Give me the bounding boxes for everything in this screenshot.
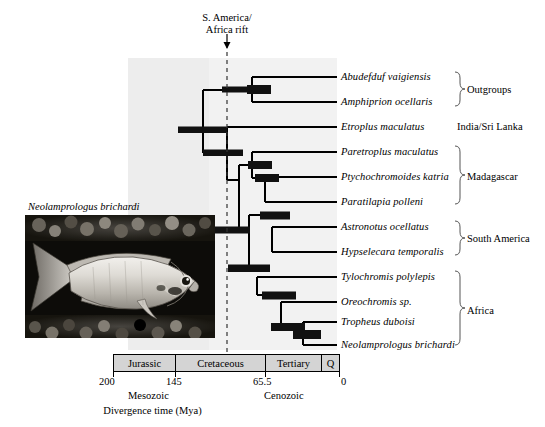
taxon-label: Oreochromis sp.	[341, 296, 412, 307]
node-bar-africa-b	[271, 323, 305, 331]
axis-title: Divergence time (Mya)	[0, 405, 425, 416]
node-bar-root	[178, 127, 227, 134]
region-label-south-america: South America	[467, 233, 530, 244]
tick-label-0: 0	[341, 376, 346, 387]
tick-label-145: 145	[166, 376, 182, 387]
bracket-madagascar	[455, 146, 465, 204]
region-label-madagascar: Madagascar	[467, 171, 518, 182]
eye-pupil	[182, 277, 190, 285]
region-label-africa: Africa	[467, 305, 494, 316]
period-quaternary: Q	[322, 355, 339, 371]
period-cretaceous: Cretaceous	[176, 355, 266, 371]
period-tertiary: Tertiary	[266, 355, 322, 371]
region-label-india-sri-lanka: India/Sri Lanka	[457, 121, 523, 132]
node-bar-africa	[262, 292, 296, 300]
node-bar-malagasy-plus	[210, 227, 250, 234]
gravel-top	[25, 215, 215, 241]
rift-annotation-line1: S. America/	[177, 12, 277, 24]
taxon-label: Hypselecara temporalis	[341, 246, 444, 257]
fish-photo-image	[25, 215, 215, 338]
bracket-africa	[455, 271, 465, 345]
taxon-label: Astronotus ocellatus	[341, 221, 429, 232]
node-bar-madagascar	[248, 161, 272, 169]
taxon-label: Amphiprion ocellaris	[341, 96, 433, 107]
taxon-label: Tropheus duboisi	[341, 316, 415, 327]
taxon-label: Neolamprologus brichardi	[341, 339, 455, 350]
taxon-label: Ptychochromoides katria	[341, 171, 449, 182]
opercular-spot	[168, 287, 182, 295]
region-label-outgroups: Outgroups	[467, 84, 511, 95]
rift-annotation: S. America/ Africa rift	[177, 12, 277, 36]
era-label-mesozoic: Mesozoic	[128, 390, 169, 401]
node-bar-ptycho-parati	[255, 174, 279, 182]
bracket-outgroups	[455, 72, 465, 106]
gravel-bottom	[25, 315, 215, 338]
node-bar-neotropical-african	[228, 265, 270, 273]
taxon-label: Paretroplus maculatus	[341, 146, 438, 157]
tick-label-65: 65.5	[253, 376, 271, 387]
fish-photo	[25, 215, 215, 338]
taxon-label: Etroplus maculatus	[341, 121, 424, 132]
taxon-label: Tylochromis polylepis	[341, 271, 435, 282]
taxon-label: Abudefduf vaigiensis	[341, 71, 431, 82]
node-bar-outgroups-a	[222, 87, 248, 93]
rift-marker	[224, 34, 231, 353]
phylogeny-figure: Abudefduf vaigiensis Amphiprion ocellari…	[0, 0, 545, 427]
tick-0	[339, 372, 340, 377]
photo-caption: Neolamprologus brichardi	[28, 201, 140, 212]
tick-label-200: 200	[99, 376, 115, 387]
rift-arrow-head	[224, 42, 231, 49]
era-label-cenozoic: Cenozoic	[264, 390, 304, 401]
node-bar-africa-c	[293, 330, 321, 339]
eye-highlight	[186, 278, 189, 281]
bracket-south-america	[455, 221, 465, 255]
rift-annotation-line2: Africa rift	[177, 24, 277, 36]
period-jurassic: Jurassic	[114, 355, 176, 371]
node-bar-outgroups-b	[247, 85, 271, 94]
taxon-label: Paratilapia polleni	[341, 196, 423, 207]
timescale-bar: Jurassic Cretaceous Tertiary Q	[113, 354, 340, 372]
region-brackets	[455, 72, 465, 345]
body-spot	[157, 285, 166, 291]
node-bar-cichlid-root	[203, 150, 243, 157]
node-bar-south-america	[260, 212, 290, 220]
